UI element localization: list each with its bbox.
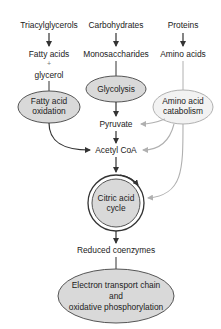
fa-oxidation-line2: oxidation xyxy=(32,106,66,116)
aa-catabolism-line1: Amino acid xyxy=(162,96,204,106)
glycolysis-label: Glycolysis xyxy=(97,84,135,94)
label-acetyl-coa: Acetyl CoA xyxy=(95,145,137,155)
label-proteins: Proteins xyxy=(168,20,199,30)
node-fatty-acid-oxidation: Fatty acid oxidation xyxy=(18,91,80,123)
label-monosaccharides: Monosaccharides xyxy=(83,49,149,59)
arrow-aa-catabolism-to-acetyl-coa xyxy=(143,124,174,150)
label-plus: + xyxy=(47,60,51,67)
label-carbohydrates: Carbohydrates xyxy=(89,20,144,30)
node-citric-acid-cycle: Citric acid cycle xyxy=(88,175,144,231)
node-electron-transport-chain: Electron transport chain and oxidative p… xyxy=(58,269,174,323)
label-triacylglycerols: Triacylglycerols xyxy=(20,20,77,30)
arrow-aa-catabolism-to-pyruvate xyxy=(141,119,165,124)
arrow-aa-catabolism-to-citric-acid-cycle xyxy=(148,124,183,198)
catabolism-diagram: Triacylglycerols Carbohydrates Proteins … xyxy=(0,0,221,329)
etc-line3: oxidative phosphorylation xyxy=(69,302,164,312)
cycle-line2: cycle xyxy=(106,203,125,213)
label-fatty-acids: Fatty acids xyxy=(29,49,70,59)
arrow-fa-oxidation-to-acetyl-coa xyxy=(49,123,90,150)
node-amino-acid-catabolism: Amino acid catabolism xyxy=(153,90,213,124)
aa-catabolism-line2: catabolism xyxy=(163,106,203,116)
etc-line1: Electron transport chain xyxy=(72,280,161,290)
label-reduced-coenzymes: Reduced coenzymes xyxy=(77,245,155,255)
label-amino-acids: Amino acids xyxy=(160,49,206,59)
etc-line2: and xyxy=(109,291,123,301)
label-glycerol: glycerol xyxy=(35,70,64,80)
node-glycolysis: Glycolysis xyxy=(86,76,146,102)
fa-oxidation-line1: Fatty acid xyxy=(31,96,68,106)
label-pyruvate: Pyruvate xyxy=(99,119,132,129)
cycle-line1: Citric acid xyxy=(98,193,135,203)
